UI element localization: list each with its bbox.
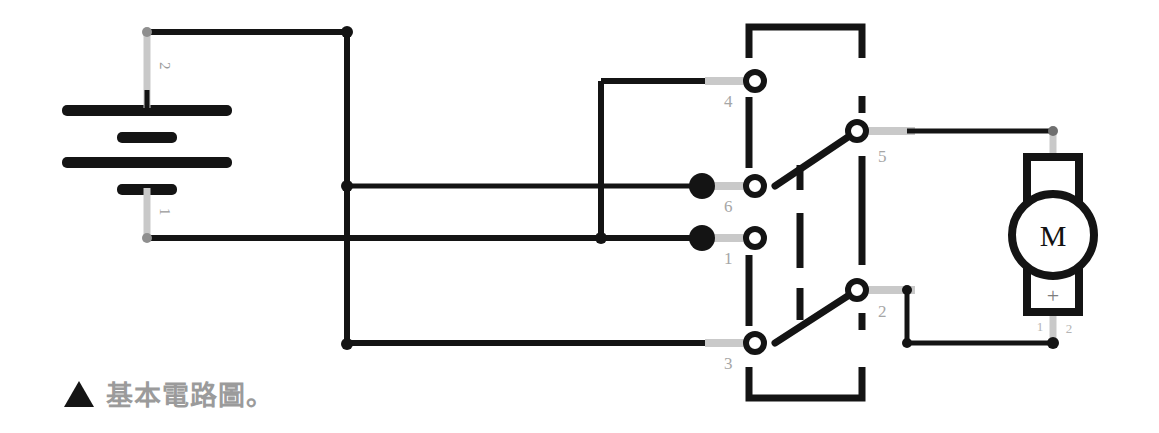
terminal-3[interactable] bbox=[746, 334, 764, 352]
terminal-label-5: 5 bbox=[878, 147, 887, 166]
terminal-label-4: 4 bbox=[724, 92, 733, 111]
terminal-4[interactable] bbox=[746, 72, 764, 90]
switch-blade-lower[interactable] bbox=[775, 290, 857, 343]
battery-plate-short-1 bbox=[117, 132, 177, 143]
terminal-5[interactable] bbox=[848, 122, 866, 140]
switch-blade-upper[interactable] bbox=[775, 131, 857, 186]
junction-dot bbox=[142, 27, 152, 37]
circuit-diagram-figure: 2 1 bbox=[0, 0, 1159, 433]
battery-terminal-label-2: 2 bbox=[157, 62, 173, 70]
caption-triangle-icon bbox=[64, 381, 94, 407]
terminal-label-2: 2 bbox=[878, 302, 887, 321]
junction-dot bbox=[341, 26, 353, 38]
circuit-schematic: 2 1 bbox=[0, 0, 1159, 433]
terminal-label-3: 3 bbox=[724, 354, 733, 373]
battery-terminal-label-1: 1 bbox=[157, 208, 173, 216]
junction-dot bbox=[341, 338, 353, 350]
switch-blades[interactable] bbox=[775, 131, 857, 343]
junction-dot bbox=[902, 285, 912, 295]
junction-dot bbox=[142, 233, 152, 243]
lead-connector-blobs bbox=[689, 173, 715, 251]
motor-pin-label-2: 2 bbox=[1066, 321, 1073, 336]
switch-outline-top bbox=[749, 27, 862, 58]
motor-polarity-plus: + bbox=[1047, 283, 1059, 308]
motor-symbol: M + 1 2 bbox=[1012, 157, 1094, 336]
battery-plate-long-2 bbox=[62, 157, 232, 168]
terminal-2[interactable] bbox=[848, 281, 866, 299]
figure-caption: 基本電路圖。 bbox=[64, 374, 274, 413]
terminal-4-branch bbox=[601, 81, 712, 240]
junction-dot bbox=[1048, 126, 1058, 136]
caption-label: 基本電路圖。 bbox=[106, 374, 274, 413]
terminal-6[interactable] bbox=[746, 177, 764, 195]
junction-dot bbox=[341, 180, 353, 192]
terminal-label-6: 6 bbox=[724, 197, 733, 216]
terminal-label-1: 1 bbox=[724, 249, 733, 268]
terminal-1[interactable] bbox=[746, 229, 764, 247]
connector-blob-6 bbox=[689, 173, 715, 199]
switch-outline-bottom bbox=[749, 367, 862, 398]
junction-dot bbox=[902, 338, 912, 348]
junction-dot bbox=[595, 232, 607, 244]
switch-terminals[interactable] bbox=[746, 72, 866, 352]
motor-pin-label-1: 1 bbox=[1037, 319, 1044, 334]
junction-dot bbox=[1047, 337, 1059, 349]
connector-blob-1 bbox=[689, 225, 715, 251]
motor-label: M bbox=[1040, 219, 1067, 252]
battery-symbol: 2 1 bbox=[62, 34, 232, 238]
